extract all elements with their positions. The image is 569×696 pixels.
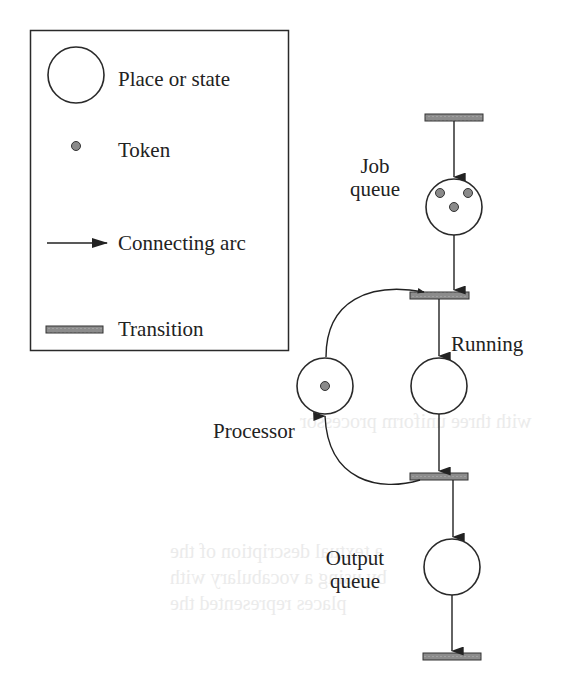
legend-label-arc: Connecting arc: [118, 232, 246, 254]
token: [436, 189, 445, 198]
label-running: Running: [451, 333, 523, 355]
transition-finish: [410, 473, 468, 480]
place-running: [411, 358, 467, 414]
place-processor: [297, 358, 353, 414]
transition-arrive: [425, 114, 483, 121]
transition-start: [410, 292, 469, 299]
label-output-queue-line2: queue: [315, 570, 395, 592]
label-job-queue-line1: Job: [345, 155, 405, 177]
legend-label-token: Token: [118, 139, 170, 161]
token: [321, 382, 330, 391]
token-dot-icon: [72, 142, 81, 151]
legend-label-transition: Transition: [118, 318, 204, 340]
label-output-queue-line1: Output: [315, 547, 395, 569]
transition-bar-icon: [46, 326, 103, 333]
label-job-queue-line2: queue: [345, 178, 405, 200]
place-circle-icon: [48, 47, 104, 103]
token: [464, 189, 473, 198]
transition-depart: [423, 653, 481, 660]
place-output-queue: [424, 539, 480, 595]
label-processor: Processor: [213, 420, 295, 442]
legend-label-place: Place or state: [118, 68, 230, 90]
place-job-queue: [426, 179, 482, 235]
token: [450, 203, 459, 212]
